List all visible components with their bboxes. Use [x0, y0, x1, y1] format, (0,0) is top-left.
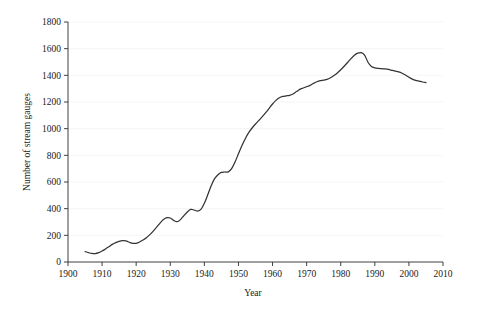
x-tick-label: 1990: [365, 269, 384, 279]
y-tick-label: 600: [47, 177, 62, 187]
x-axis-title: Year: [244, 288, 262, 298]
y-tick-label: 1400: [42, 71, 61, 81]
figure-container: 020040060080010001200140016001800 190019…: [0, 0, 477, 312]
y-tick-labels: 020040060080010001200140016001800: [42, 17, 61, 267]
y-tick-label: 200: [47, 231, 62, 241]
y-axis-title: Number of stream gauges: [22, 93, 32, 191]
y-tick-label: 0: [56, 257, 61, 267]
x-tick-label: 1900: [59, 269, 78, 279]
y-tick-label: 1600: [42, 44, 61, 54]
y-tick-label: 400: [47, 204, 62, 214]
y-tick-label: 800: [47, 151, 62, 161]
axis-ticks: [64, 22, 443, 266]
x-tick-label: 1940: [195, 269, 214, 279]
x-tick-label: 2000: [399, 269, 418, 279]
x-tick-label: 1950: [229, 269, 248, 279]
y-tick-label: 1000: [42, 124, 61, 134]
data-series-line: [85, 53, 426, 254]
gridlines: [68, 22, 443, 235]
x-tick-labels: 1900191019201930194019501960197019801990…: [59, 269, 453, 279]
x-tick-label: 1920: [127, 269, 146, 279]
x-tick-label: 1960: [263, 269, 282, 279]
y-tick-label: 1200: [42, 97, 61, 107]
x-tick-label: 2010: [434, 269, 453, 279]
y-tick-label: 1800: [42, 17, 61, 27]
x-tick-label: 1980: [331, 269, 350, 279]
x-tick-label: 1910: [93, 269, 112, 279]
x-tick-label: 1930: [161, 269, 180, 279]
line-chart: 020040060080010001200140016001800 190019…: [0, 0, 477, 312]
x-tick-label: 1970: [297, 269, 316, 279]
